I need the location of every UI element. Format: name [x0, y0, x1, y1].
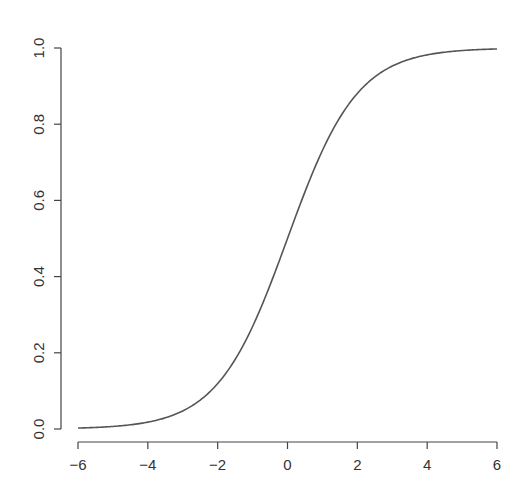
y-tick-label: 0.4: [30, 266, 47, 287]
x-tick-label: −2: [209, 456, 226, 473]
x-tick-label: −4: [139, 456, 156, 473]
y-tick-label: 0.2: [30, 342, 47, 363]
x-tick-label: −6: [69, 456, 86, 473]
y-axis: 0.00.20.40.60.81.0: [30, 38, 61, 440]
x-tick-label: 2: [353, 456, 361, 473]
x-tick-label: 4: [423, 456, 431, 473]
x-tick-label: 6: [493, 456, 501, 473]
y-tick-label: 0.8: [30, 114, 47, 135]
sigmoid-curve: [78, 49, 497, 428]
y-tick-label: 0.6: [30, 190, 47, 211]
x-tick-label: 0: [283, 456, 291, 473]
x-axis: −6−4−20246: [69, 442, 501, 473]
sigmoid-chart: 0.00.20.40.60.81.0 −6−4−20246: [0, 0, 526, 494]
y-tick-label: 0.0: [30, 419, 47, 440]
y-tick-label: 1.0: [30, 38, 47, 59]
